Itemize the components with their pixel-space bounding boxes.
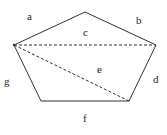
label-e: e xyxy=(97,63,102,75)
pentagon-diagram: a b c d e f g xyxy=(0,0,167,135)
slanted-diagonal xyxy=(14,45,129,101)
label-g: g xyxy=(4,75,10,87)
label-c: c xyxy=(83,26,88,38)
label-d: d xyxy=(153,73,159,85)
label-b: b xyxy=(136,14,142,26)
label-f: f xyxy=(83,112,87,124)
label-a: a xyxy=(27,10,32,22)
vertex-dot xyxy=(13,44,15,46)
